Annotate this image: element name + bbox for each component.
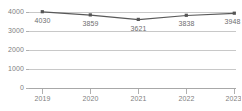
data-label-2021: 3621 — [121, 25, 157, 33]
data-label-2023: 3948 — [215, 18, 242, 26]
data-label-2020: 3859 — [73, 20, 109, 28]
y-tick-label-3000: 3000 — [0, 27, 24, 35]
x-tick-label-2023: 2023 — [216, 95, 242, 103]
data-label-2022: 3838 — [169, 20, 205, 28]
data-point-marker — [233, 12, 236, 15]
data-label-2019: 4030 — [25, 17, 61, 25]
y-tick-label-2000: 2000 — [0, 46, 24, 54]
x-tick-label-2022: 2022 — [169, 95, 205, 103]
y-tick-label-0: 0 — [0, 84, 24, 92]
data-point-markers — [41, 10, 236, 21]
y-tick-label-1000: 1000 — [0, 65, 24, 73]
x-tick-label-2019: 2019 — [25, 95, 61, 103]
y-tick-label-4000: 4000 — [0, 8, 24, 16]
x-axis-ticks — [43, 89, 235, 94]
data-point-marker — [89, 13, 92, 16]
data-point-marker — [185, 14, 188, 17]
data-point-marker — [41, 10, 44, 13]
x-tick-label-2020: 2020 — [73, 95, 109, 103]
line-chart: 4000 3000 2000 1000 0 2019 2020 2021 202… — [0, 0, 241, 111]
x-tick-label-2021: 2021 — [121, 95, 157, 103]
data-point-marker — [137, 18, 140, 21]
